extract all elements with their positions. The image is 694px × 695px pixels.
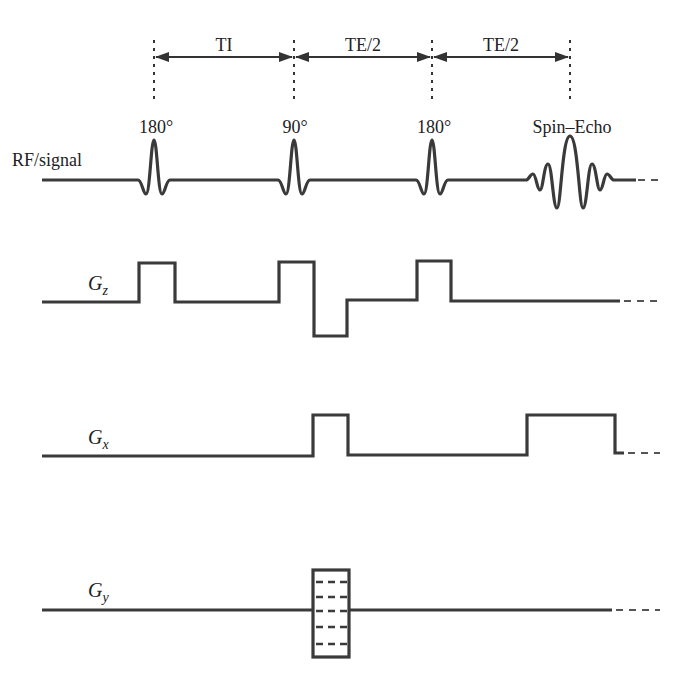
pulse-label-spin-echo: Spin–Echo — [533, 117, 612, 137]
gz-label-main: G — [88, 272, 103, 294]
gz-row: Gz — [42, 261, 660, 336]
gy-label: Gy — [88, 579, 109, 605]
pulse-label-180-refocus: 180° — [417, 117, 451, 137]
gx-trace — [42, 415, 624, 456]
gz-trace — [42, 261, 620, 336]
interval-label-te-half-1: TE/2 — [345, 35, 381, 55]
gy-label-sub: y — [100, 590, 109, 605]
rf-signal-label: RF/signal — [12, 150, 82, 170]
timing-markers: TI TE/2 TE/2 — [154, 35, 570, 104]
pulse-label-180-inversion: 180° — [139, 117, 173, 137]
pulse-sequence-diagram: TI TE/2 TE/2 180° 90° 180° Spin–Echo RF/… — [0, 0, 694, 695]
gx-label-main: G — [88, 426, 103, 448]
gz-label: Gz — [88, 272, 108, 298]
pulse-label-90: 90° — [282, 117, 307, 137]
pulse-labels: 180° 90° 180° Spin–Echo — [139, 117, 612, 137]
interval-label-ti: TI — [216, 35, 233, 55]
rf-signal-row: RF/signal — [12, 136, 660, 208]
phase-encode-table — [313, 570, 349, 657]
gy-row: Gy — [42, 570, 660, 657]
gx-label-sub: x — [101, 437, 109, 452]
gx-label: Gx — [88, 426, 109, 452]
gy-label-main: G — [88, 579, 103, 601]
gz-label-sub: z — [101, 283, 108, 298]
gx-row: Gx — [42, 415, 660, 456]
rf-trace — [42, 136, 636, 208]
interval-label-te-half-2: TE/2 — [483, 35, 519, 55]
